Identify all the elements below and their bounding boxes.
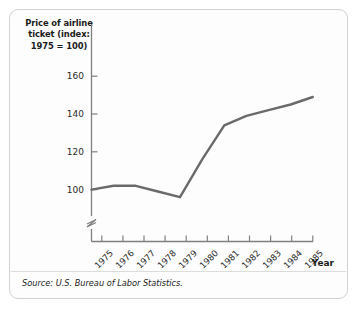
data-series-line xyxy=(92,97,313,197)
x-tick-marks xyxy=(102,236,313,242)
y-tick-label-160: 160 xyxy=(54,72,84,81)
axis-break-icon xyxy=(87,220,96,228)
x-axis-label: Year xyxy=(312,258,334,268)
y-tick-label-120: 120 xyxy=(54,148,84,157)
y-tick-label-140: 140 xyxy=(54,110,84,119)
y-tick-label-100: 100 xyxy=(54,186,84,195)
y-tick-marks xyxy=(92,76,98,189)
footer-divider xyxy=(11,271,346,272)
chart-figure: Price of airline ticket (index: 1975 = 1… xyxy=(9,9,348,299)
source-note: Source: U.S. Bureau of Labor Statistics. xyxy=(22,278,183,288)
